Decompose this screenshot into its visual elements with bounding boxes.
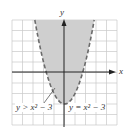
- graph-plot: [0, 0, 128, 133]
- x-axis-label: x: [119, 67, 123, 76]
- x-axis-arrow-icon: [109, 70, 116, 75]
- inequality-label: y > x² − 3: [15, 103, 53, 112]
- annotation-leader-line: [44, 88, 55, 103]
- equation-label: y = x² − 3: [68, 103, 106, 112]
- y-axis-label: y: [60, 8, 64, 17]
